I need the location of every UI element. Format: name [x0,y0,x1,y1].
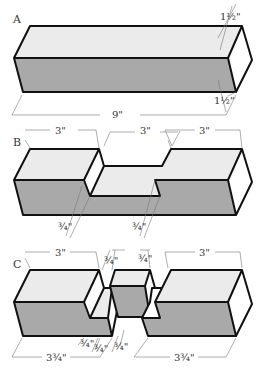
bar-a-front-face [14,58,236,92]
dim-a-height-label: 1½" [214,95,235,106]
dim-c-lap-bottom-3-label: ¾" [114,341,128,352]
dim-c-lap-top-right-label: ¾" [138,253,152,264]
section-b-label: B [13,136,21,149]
dim-b-left-label: 3" [55,125,66,136]
section-c-label: C [13,258,21,271]
half-lap-joint-diagram: A 9" 1½" 1½" B 3" 3" 3 [0,0,257,368]
dim-c-left-total-label: 3¾" [46,352,67,363]
dim-c-lap-bottom-1-label: ¾" [80,338,94,349]
bar-c-middle-top [110,270,150,286]
dim-b-middle-label: 3" [140,125,151,136]
section-b: B 3" 3" 3" ¾" ¾" [13,125,252,238]
dim-c-lap-bottom-2-label: ¾" [94,343,108,354]
dim-b-right-label: 3" [199,125,210,136]
bar-a-top-face [14,26,242,58]
dim-a-width-label: 1½" [220,11,241,22]
dim-a-length [12,95,236,115]
section-a-label: A [12,13,22,26]
dim-c-lap-top-left-label: ¾" [104,255,118,266]
dim-b-notch-left-label: ¾" [58,221,72,232]
dim-c-left-top-label: 3" [55,247,66,258]
dim-a-length-label: 9" [112,109,123,120]
dim-c-right-total-label: 3¾" [174,352,195,363]
section-a: A 9" 1½" 1½" [12,4,252,120]
bar-c-left-piece [14,270,118,336]
dim-c-right-top-label: 3" [199,247,210,258]
dim-b-notch-right-label: ¾" [132,221,146,232]
bar-c-right-piece [142,270,252,336]
section-c: C 3" ¾" ¾" [12,247,252,363]
